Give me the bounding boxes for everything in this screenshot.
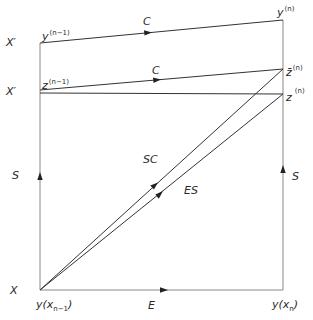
sc-label: SC xyxy=(143,153,158,166)
zbar-n-label: z̄(n) xyxy=(285,64,303,79)
es-label: ES xyxy=(184,184,198,197)
e-bottom-label: E xyxy=(148,299,155,312)
z-n-label: z(n) xyxy=(285,87,305,104)
y-n-label: y(n) xyxy=(276,5,295,19)
x-prime-mid-label: X′ xyxy=(5,85,17,98)
s-right-label: S xyxy=(292,170,299,183)
y-x-n-label: y(xn) xyxy=(271,298,298,313)
c-top-label: C xyxy=(143,15,151,28)
mid-c-arrow-icon xyxy=(153,78,161,83)
x-bottom-label: X xyxy=(9,284,18,297)
x-prime-top-label: X′ xyxy=(5,36,17,49)
y-x-n-minus-1-label: y(xn−1) xyxy=(35,298,72,313)
top-c-line xyxy=(40,20,283,43)
bottom-e-arrow-icon xyxy=(160,287,168,292)
z-n-minus-1-label: z(n−1) xyxy=(41,78,69,92)
top-c-arrow-icon xyxy=(144,30,152,35)
sc-diagonal-line xyxy=(40,69,283,290)
right-s-arrow-icon xyxy=(280,165,285,173)
c-mid-label: C xyxy=(152,64,160,77)
es-arrow-icon xyxy=(155,191,163,199)
mid-c-line xyxy=(40,69,283,90)
z-horizontal-line xyxy=(40,93,283,94)
commutative-diagram: X′ X′ S X y(n−1) y(n) z(n−1) z̄(n) z(n) … xyxy=(0,0,313,320)
s-left-label: S xyxy=(12,169,19,182)
left-s-arrow-icon xyxy=(37,172,42,180)
